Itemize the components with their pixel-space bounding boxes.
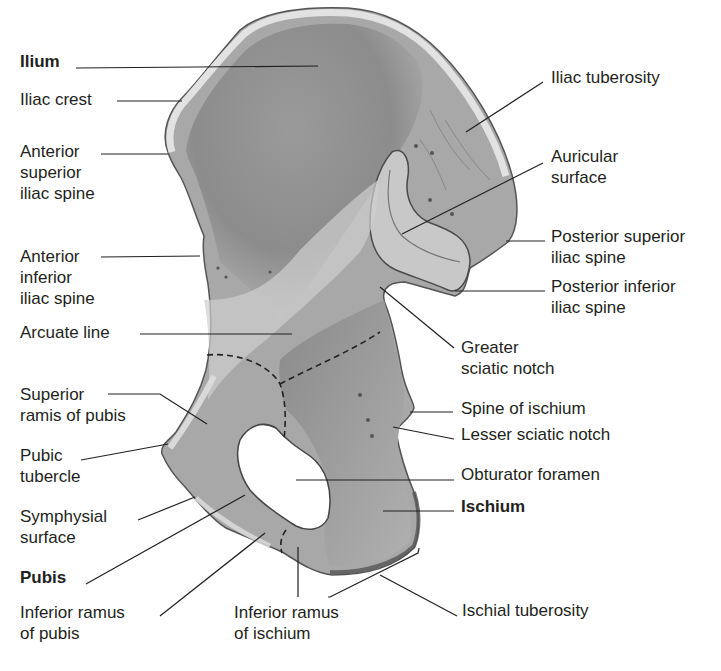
label-psis: Posterior superior iliac spine <box>551 226 685 268</box>
label-ilium: Ilium <box>20 51 60 72</box>
leader-line-aiis <box>101 256 200 257</box>
label-pubic-tubercle: Pubic tubercle <box>20 445 80 487</box>
label-ischium: Ischium <box>461 496 525 517</box>
label-symphysial-surface: Symphysial surface <box>20 506 107 548</box>
label-superior-ramus-pubis: Superior ramis of pubis <box>20 384 126 426</box>
label-iliac-tuberosity: Iliac tuberosity <box>551 67 660 88</box>
leader-line-pubic-tubercle <box>81 444 168 460</box>
label-inferior-ramus-pubis: Inferior ramus of pubis <box>20 602 125 644</box>
leader-line-ischial-tuberosity <box>380 575 457 616</box>
leader-line-symphysial-surface <box>138 497 195 520</box>
leader-line-lesser-sciatic-notch <box>393 427 454 439</box>
label-asis: Anterior superior iliac spine <box>20 141 95 204</box>
label-obturator-foramen: Obturator foramen <box>461 464 600 485</box>
label-iliac-crest: Iliac crest <box>20 89 92 110</box>
label-greater-sciatic-notch: Greater sciatic notch <box>461 337 555 379</box>
label-aiis: Anterior inferior iliac spine <box>20 246 95 309</box>
label-inferior-ramus-ischium: Inferior ramus of ischium <box>234 602 339 644</box>
label-pubis: Pubis <box>20 567 66 588</box>
label-spine-ischium: Spine of ischium <box>461 398 586 419</box>
label-ischial-tuberosity: Ischial tuberosity <box>462 600 589 621</box>
label-auricular-surface: Auricular surface <box>551 146 618 188</box>
label-arcuate-line: Arcuate line <box>20 322 110 343</box>
label-lesser-sciatic-notch: Lesser sciatic notch <box>461 424 610 445</box>
label-piis: Posterior inferior iliac spine <box>551 276 676 318</box>
